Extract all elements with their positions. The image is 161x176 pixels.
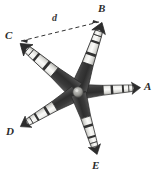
vertex-label-b: B <box>98 3 105 14</box>
arm-D[interactable] <box>16 86 80 133</box>
arm-E[interactable] <box>71 92 104 157</box>
vertex-label-c: C <box>5 30 12 41</box>
distance-label-d: d <box>52 13 57 23</box>
center-hub <box>73 87 83 97</box>
radial-arrow-figure: A B C D E d <box>0 0 161 176</box>
dashed-segment-cb <box>21 20 99 43</box>
vertex-label-a: A <box>144 81 151 92</box>
vertex-label-e: E <box>92 160 99 171</box>
figure-canvas <box>0 0 161 176</box>
vertex-label-d: D <box>6 126 14 137</box>
